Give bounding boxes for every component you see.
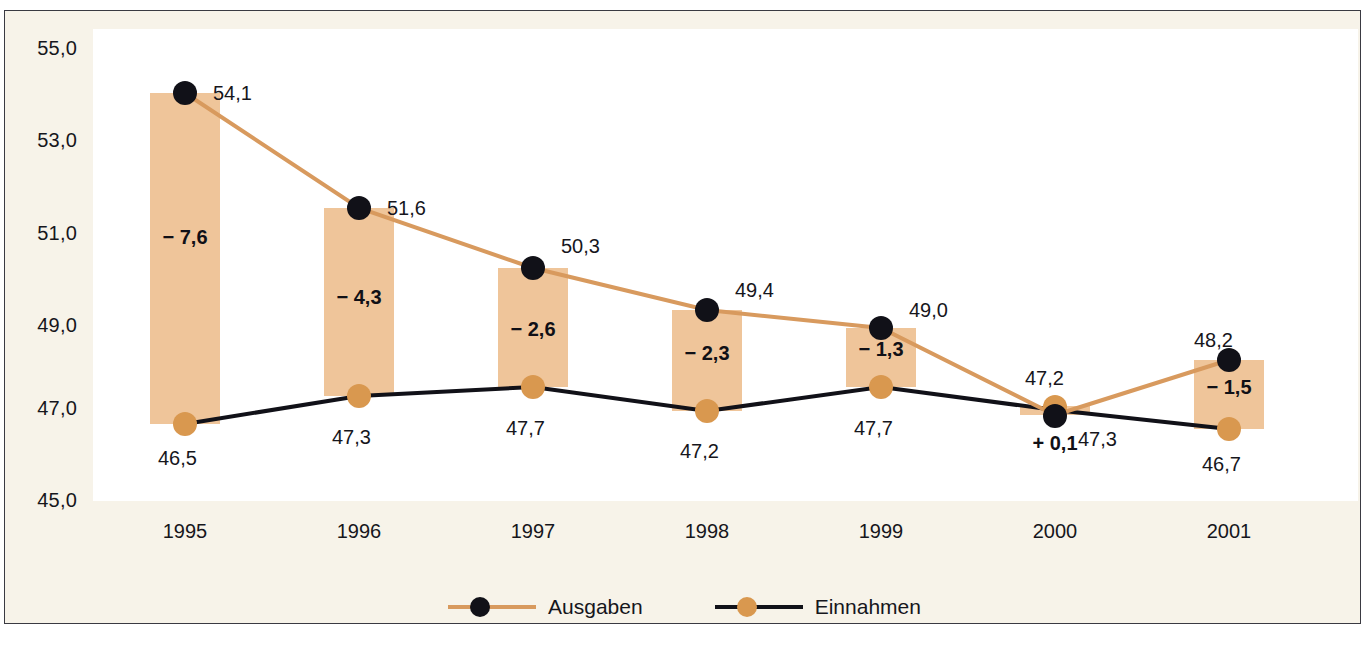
bar-group xyxy=(150,93,1264,429)
legend-marker-einnahmen-icon xyxy=(713,597,805,617)
chart-canvas xyxy=(93,29,1358,501)
saldo-label-1995: − 7,6 xyxy=(145,226,225,249)
ausgaben-label-2001: 48,2 xyxy=(1194,329,1233,352)
saldo-label-1999: − 1,3 xyxy=(841,338,921,361)
x-axis-tick-1997: 1997 xyxy=(473,520,593,543)
saldo-label-1996: − 4,3 xyxy=(319,286,399,309)
einnahmen-point-1997 xyxy=(521,375,545,399)
ausgaben-label-1996: 51,6 xyxy=(387,197,426,220)
einnahmen-label-2001: 46,7 xyxy=(1202,453,1241,476)
ausgaben-point-1996 xyxy=(347,196,371,220)
y-axis-tick-2: 51,0 xyxy=(5,222,77,245)
einnahmen-point-1995 xyxy=(173,412,197,436)
legend-label-einnahmen: Einnahmen xyxy=(815,595,921,619)
x-axis-tick-1998: 1998 xyxy=(647,520,767,543)
x-axis-tick-1996: 1996 xyxy=(299,520,419,543)
einnahmen-point-1996 xyxy=(347,384,371,408)
legend-item-einnahmen[interactable]: Einnahmen xyxy=(713,595,921,619)
ausgaben-point-1999 xyxy=(869,316,893,340)
chart-panel: 55,0 53,0 51,0 49,0 47,0 45,0 xyxy=(4,10,1361,624)
einnahmen-label-1997: 47,7 xyxy=(506,417,545,440)
einnahmen-label-1999: 47,7 xyxy=(854,417,893,440)
saldo-label-2000: + 0,1 xyxy=(1005,432,1105,455)
ausgaben-label-1997: 50,3 xyxy=(561,235,600,258)
chart-legend: Ausgaben Einnahmen xyxy=(5,589,1362,625)
einnahmen-point-2001 xyxy=(1217,417,1241,441)
bar-1995 xyxy=(150,93,220,424)
ausgaben-point-1998 xyxy=(695,298,719,322)
x-axis-tick-2000: 2000 xyxy=(995,520,1115,543)
ausgaben-point-1995 xyxy=(173,81,197,105)
y-axis-tick-1: 53,0 xyxy=(5,129,77,152)
ausgaben-label-1999: 49,0 xyxy=(909,299,948,322)
einnahmen-label-1996: 47,3 xyxy=(332,426,371,449)
ausgaben-label-1998: 49,4 xyxy=(735,279,774,302)
einnahmen-point-1999 xyxy=(869,375,893,399)
ausgaben-label-2000: 47,2 xyxy=(1025,367,1064,390)
x-axis-tick-1999: 1999 xyxy=(821,520,941,543)
x-axis-tick-1995: 1995 xyxy=(125,520,245,543)
einnahmen-label-1998: 47,2 xyxy=(680,440,719,463)
ausgaben-point-2000 xyxy=(1043,404,1067,428)
legend-item-ausgaben[interactable]: Ausgaben xyxy=(446,595,643,619)
y-axis-tick-0: 55,0 xyxy=(5,37,77,60)
ausgaben-point-1997 xyxy=(521,256,545,280)
y-axis-tick-3: 49,0 xyxy=(5,314,77,337)
y-axis-tick-5: 45,0 xyxy=(5,489,77,512)
saldo-label-2001: − 1,5 xyxy=(1189,376,1269,399)
ausgaben-label-1995: 54,1 xyxy=(213,82,252,105)
saldo-label-1997: − 2,6 xyxy=(493,318,573,341)
saldo-label-1998: − 2,3 xyxy=(667,342,747,365)
einnahmen-label-1995: 46,5 xyxy=(158,447,197,470)
plot-area: 54,1 51,6 50,3 49,4 49,0 47,2 48,2 46,5 … xyxy=(93,29,1358,501)
y-axis-tick-4: 47,0 xyxy=(5,397,77,420)
legend-label-ausgaben: Ausgaben xyxy=(548,595,643,619)
x-axis-tick-2001: 2001 xyxy=(1169,520,1289,543)
legend-marker-ausgaben-icon xyxy=(446,597,538,617)
einnahmen-point-1998 xyxy=(695,399,719,423)
chart-root: 55,0 53,0 51,0 49,0 47,0 45,0 xyxy=(0,0,1369,645)
